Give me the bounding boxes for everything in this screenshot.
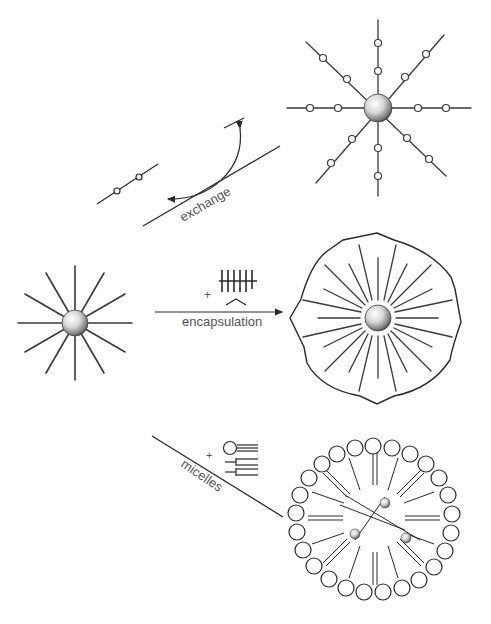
diagram-canvas: exchange xyxy=(0,0,491,624)
nanoparticle-hydrophobic xyxy=(18,266,132,380)
lipid-heads xyxy=(288,438,460,600)
lipid-tails xyxy=(308,452,440,585)
nanoparticle-exchanged xyxy=(287,20,471,196)
nanoparticle-core xyxy=(62,310,88,336)
plus-sign-micelles: + xyxy=(206,449,212,461)
nanoparticle-core xyxy=(380,498,390,508)
encapsulation-step xyxy=(155,270,282,312)
micelle-with-nanoparticles xyxy=(288,438,460,600)
amphiphilic-polymer-icon xyxy=(219,270,257,292)
nanoparticle-core xyxy=(350,529,360,539)
nanoparticle-encapsulated xyxy=(290,233,461,404)
nanoparticle-core xyxy=(401,533,411,543)
micelles-label: micelles xyxy=(178,456,226,495)
plus-sign-encapsulation: + xyxy=(204,288,211,302)
caret-icon xyxy=(226,299,246,305)
nanoparticle-core xyxy=(365,305,391,331)
nanoparticle-core xyxy=(364,94,392,122)
encapsulation-label: encapsulation xyxy=(182,314,262,329)
phospholipid-icon xyxy=(224,442,259,477)
